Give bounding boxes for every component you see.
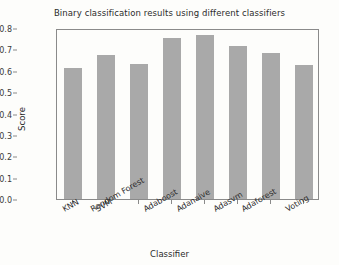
- y-tick-label: 0.5: [0, 89, 12, 98]
- bar: [97, 55, 115, 199]
- x-tick-mark: [171, 200, 172, 204]
- bar: [229, 46, 247, 199]
- bar-series: [57, 30, 318, 199]
- y-tick-mark: [13, 50, 17, 51]
- x-tick-mark: [270, 200, 271, 204]
- y-tick-label: 0.4: [0, 110, 12, 119]
- y-axis: 0.00.10.20.30.40.50.60.70.8: [0, 0, 56, 265]
- y-tick-label: 0.6: [0, 67, 12, 76]
- bar: [64, 68, 82, 199]
- y-tick-label: 0.1: [0, 174, 12, 183]
- bar: [262, 53, 280, 199]
- x-tick-mark: [138, 200, 139, 204]
- y-tick-mark: [13, 29, 17, 30]
- bar: [196, 35, 214, 199]
- y-tick-mark: [13, 71, 17, 72]
- bar-chart-figure: Binary classification results using diff…: [0, 0, 339, 265]
- bar: [295, 65, 313, 199]
- y-tick-mark: [13, 178, 17, 179]
- y-tick-mark: [13, 157, 17, 158]
- y-tick-mark: [13, 200, 17, 201]
- y-axis-label: Score: [17, 89, 27, 149]
- y-tick-label: 0.7: [0, 46, 12, 55]
- y-tick-label: 0.3: [0, 131, 12, 140]
- x-tick-mark: [204, 200, 205, 204]
- y-tick-label: 0.2: [0, 153, 12, 162]
- x-axis-label: Classifier: [0, 249, 339, 259]
- bar: [163, 38, 181, 199]
- y-tick-label: 0.8: [0, 25, 12, 34]
- plot-area: [56, 29, 319, 200]
- y-tick-label: 0.0: [0, 196, 12, 205]
